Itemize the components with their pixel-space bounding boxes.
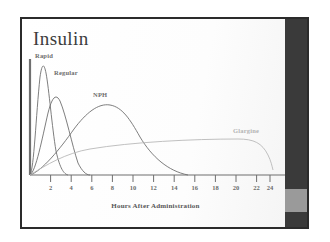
- x-tick-label: 10: [130, 184, 137, 191]
- x-tick-label: 6: [90, 184, 93, 191]
- curve-glargine: [30, 139, 273, 175]
- chart-svg: [22, 19, 289, 227]
- curve-regular: [30, 97, 90, 175]
- x-tick-label: 18: [212, 184, 219, 191]
- x-tick-label: 22: [253, 184, 260, 191]
- curve-label-glargine: Glargine: [233, 127, 259, 134]
- slide-frame: Insulin: [20, 17, 309, 229]
- screenshot-root: Insulin: [0, 0, 330, 242]
- x-tick-label: 14: [171, 184, 178, 191]
- x-tick-label: 16: [192, 184, 199, 191]
- x-tick-label: 2: [49, 184, 52, 191]
- x-tick-label: 4: [70, 184, 73, 191]
- slide-canvas: Insulin: [22, 19, 307, 227]
- x-tick-label: 20: [233, 184, 240, 191]
- x-tick-label: 12: [150, 184, 157, 191]
- x-tick-label: 8: [111, 184, 114, 191]
- x-axis-title: Hours After Administration: [22, 202, 289, 210]
- x-axis-ticks: [51, 175, 270, 182]
- insulin-chart: Insulin: [22, 19, 289, 227]
- vertical-scrollbar-thumb[interactable]: [285, 189, 307, 212]
- curve-label-rapid: Rapid: [35, 52, 53, 59]
- curve-rapid: [30, 66, 68, 175]
- curve-nph: [30, 105, 188, 175]
- x-tick-label: 24: [267, 184, 274, 191]
- curve-label-regular: Regular: [54, 69, 78, 76]
- vertical-scrollbar-track[interactable]: [285, 19, 307, 227]
- curve-label-nph: NPH: [93, 91, 107, 98]
